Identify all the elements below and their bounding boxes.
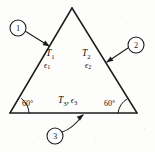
callout-2[interactable]: 2 [106, 37, 144, 63]
callout-3-label: 3 [53, 131, 57, 141]
surface-1-emissivity: ϵ1 [44, 61, 50, 71]
callout-2-label: 2 [134, 40, 138, 50]
triangle-diagram: T1 ϵ1 T2 ϵ2 T3, ϵ3 60° 60° 1 2 [0, 0, 155, 152]
scan-speck [95, 138, 96, 139]
callout-1[interactable]: 1 [10, 20, 50, 47]
surface-2-temperature: T2 [82, 48, 91, 59]
callout-1-label: 1 [16, 23, 20, 33]
callout-3-arrowhead [77, 114, 84, 120]
surface-2-emissivity: ϵ2 [85, 61, 91, 71]
angle-label-bottom-right: 60° [104, 99, 115, 108]
surface-1-labels: T1 ϵ1 [44, 48, 55, 70]
surface-2-labels: T2 ϵ2 [82, 48, 91, 70]
callout-2-arrowhead [106, 57, 113, 63]
scan-speck [33, 143, 34, 144]
scan-speck [144, 128, 145, 129]
surface-3-temperature-emissivity: T3, ϵ3 [58, 95, 77, 106]
scan-speck [14, 9, 15, 10]
triangle-right-edge [72, 8, 137, 113]
surface-1-temperature: T1 [46, 48, 55, 59]
scan-speck [121, 16, 122, 17]
angle-arc-bottom-right [118, 99, 127, 113]
figure-container: T1 ϵ1 T2 ϵ2 T3, ϵ3 60° 60° 1 2 [0, 0, 155, 152]
angle-label-bottom-left: 60° [22, 99, 33, 108]
callout-1-arrowhead [43, 41, 50, 47]
callout-3[interactable]: 3 [47, 114, 84, 144]
surface-3-labels: T3, ϵ3 [58, 95, 77, 106]
